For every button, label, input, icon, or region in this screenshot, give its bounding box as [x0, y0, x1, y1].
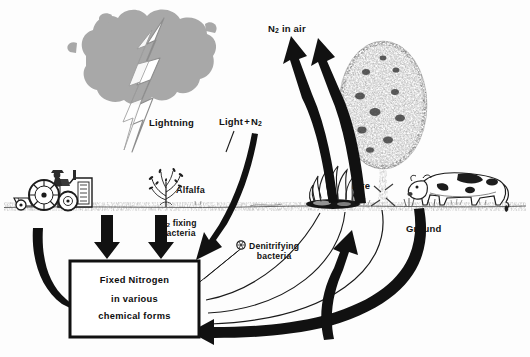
label-lightning: Lightning — [149, 118, 194, 129]
fixed-nitrogen-line-2: in various — [74, 294, 195, 304]
label-nfix-rest: fixing — [170, 218, 197, 228]
label-ground: Ground — [406, 224, 442, 235]
label-plus-sign: + — [243, 116, 251, 127]
label-n2-fixing-bacteria: N2 fixing bacteria — [160, 219, 197, 239]
label-denit-line2: bacteria — [257, 251, 292, 261]
label-denitrifying-bacteria: Denitrifying bacteria — [249, 242, 299, 262]
label-alfalfa: Alfalfa — [176, 185, 205, 195]
label-nfix-line2: bacteria — [161, 228, 196, 238]
bacteria-symbol-icon — [237, 241, 245, 249]
label-n2-in-air: N2 in air — [268, 24, 306, 35]
fixed-nitrogen-line-3: chemical forms — [74, 311, 195, 321]
label-n2-in-air-rest: in air — [279, 23, 306, 34]
label-light-n-base: N — [251, 116, 258, 127]
label-light-n-sub: 2 — [258, 120, 262, 127]
nitrogen-cycle-diagram: N2 in air Light+N2 Lightning Alfalfa N2 … — [0, 0, 530, 357]
label-denit-line1: Denitrifying — [249, 241, 299, 251]
label-light-word: Light — [219, 116, 243, 127]
label-n2-in-air-base: N — [268, 23, 275, 34]
label-fire: Fire — [352, 181, 370, 192]
label-light-plus-n2: Light+N2 — [219, 117, 262, 128]
fixed-nitrogen-line-1: Fixed Nitrogen — [74, 275, 195, 285]
